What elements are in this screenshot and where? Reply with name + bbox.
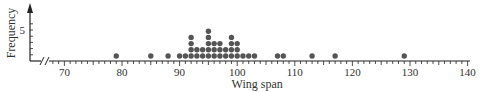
data-dot (165, 53, 170, 58)
data-dot (188, 53, 193, 58)
data-dot (206, 35, 211, 40)
x-tick-label: 110 (287, 66, 304, 78)
x-axis-title: Wing span (232, 77, 283, 91)
data-dot (229, 41, 234, 46)
y-axis-arrow-icon (27, 3, 33, 13)
data-dot (188, 47, 193, 52)
data-dot (402, 53, 407, 58)
data-dot (211, 47, 216, 52)
data-dot (235, 41, 240, 46)
data-dot (229, 47, 234, 52)
y-axis-title: Frequency (4, 8, 18, 59)
data-dot (188, 41, 193, 46)
x-tick-label: 120 (344, 66, 361, 78)
data-dot (211, 41, 216, 46)
data-dot (200, 53, 205, 58)
x-tick-label: 130 (402, 66, 419, 78)
data-dot (235, 47, 240, 52)
data-dot (194, 53, 199, 58)
data-dot (275, 53, 280, 58)
data-dot (246, 53, 251, 58)
data-dot (206, 41, 211, 46)
data-dot (148, 53, 153, 58)
data-dot (200, 47, 205, 52)
dot-plot: 5708090100110120130140Wing spanFrequency (0, 0, 485, 92)
x-tick-label: 70 (59, 66, 71, 78)
dot-plot-canvas: 5708090100110120130140Wing spanFrequency (0, 0, 485, 92)
x-tick-label: 80 (117, 66, 129, 78)
data-dot (206, 47, 211, 52)
data-dot (223, 53, 228, 58)
data-dot (229, 35, 234, 40)
data-dot (194, 47, 199, 52)
data-dot (211, 53, 216, 58)
x-tick-label: 140 (459, 66, 476, 78)
data-dot (217, 53, 222, 58)
data-dot (281, 53, 286, 58)
data-dot (177, 53, 182, 58)
data-dot (183, 53, 188, 58)
data-dot (309, 53, 314, 58)
data-dot (332, 53, 337, 58)
data-dots (114, 29, 407, 59)
data-dot (217, 41, 222, 46)
data-dot (223, 47, 228, 52)
data-dot (114, 53, 119, 58)
data-dot (252, 53, 257, 58)
axis-break-icon (45, 57, 49, 65)
data-dot (235, 53, 240, 58)
data-dot (206, 53, 211, 58)
x-tick-label: 90 (174, 66, 186, 78)
data-dot (206, 29, 211, 34)
data-dot (188, 35, 193, 40)
y-tick-label: 5 (20, 24, 26, 36)
data-dot (217, 47, 222, 52)
axis-labels: 5708090100110120130140Wing spanFrequency (4, 8, 476, 91)
data-dot (240, 53, 245, 58)
data-dot (229, 53, 234, 58)
